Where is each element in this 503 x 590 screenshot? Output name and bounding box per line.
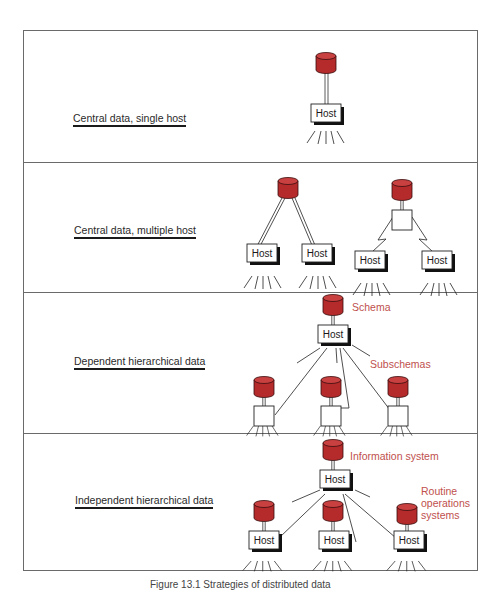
section-dependent-hierarchical-diagram: Host — [247, 295, 412, 437]
svg-text:Host: Host — [324, 535, 345, 546]
terminal-legs — [307, 131, 344, 144]
svg-text:Host: Host — [307, 248, 328, 259]
database-icon — [323, 440, 343, 461]
terminal-legs — [381, 426, 412, 436]
host-box: Host — [311, 104, 344, 125]
database-icon — [278, 178, 298, 199]
database-icon — [323, 501, 343, 522]
database-icon — [392, 180, 412, 201]
processor-box — [392, 210, 412, 230]
host-box: Host — [355, 251, 388, 272]
host-box: Host — [318, 325, 351, 346]
svg-text:Host: Host — [399, 535, 420, 546]
terminal-legs — [299, 276, 336, 289]
terminal-legs — [387, 561, 426, 571]
svg-text:Host: Host — [427, 255, 448, 266]
section-central-multiple-diagram-left: Host Host — [244, 178, 336, 290]
section-independent-hierarchical-diagram: Host Host Host Host — [243, 440, 427, 572]
host-box: Host — [422, 251, 455, 272]
processor-box — [254, 406, 274, 426]
database-icon — [316, 53, 336, 74]
svg-text:Host: Host — [323, 329, 344, 340]
processor-box — [388, 406, 408, 426]
terminal-legs — [313, 561, 352, 571]
terminal-legs — [243, 561, 282, 571]
host-box: Host — [247, 244, 280, 265]
terminal-legs — [244, 276, 281, 289]
section-central-single-diagram: Host — [307, 53, 344, 145]
host-box: Host — [302, 244, 335, 265]
section-central-multiple-diagram-right: Host Host — [353, 180, 457, 297]
database-icon — [254, 501, 274, 522]
terminal-legs — [247, 426, 278, 436]
processor-box — [321, 406, 341, 426]
host-box: Host — [394, 531, 427, 552]
host-box: Host — [249, 531, 282, 552]
terminal-legs — [420, 283, 457, 296]
host-label: Host — [316, 108, 337, 119]
svg-text:Host: Host — [325, 474, 346, 485]
database-icon — [321, 377, 341, 398]
figure-caption: Figure 13.1 Strategies of distributed da… — [150, 579, 331, 590]
database-icon — [397, 504, 417, 525]
terminal-legs — [353, 283, 390, 296]
terminal-legs — [314, 426, 345, 436]
svg-text:Host: Host — [252, 248, 273, 259]
database-icon — [323, 295, 343, 316]
svg-text:Host: Host — [254, 535, 275, 546]
host-box: Host — [319, 531, 352, 552]
host-box: Host — [320, 470, 353, 491]
database-icon — [388, 377, 408, 398]
svg-text:Host: Host — [360, 255, 381, 266]
stem-line — [325, 73, 328, 104]
database-icon — [254, 377, 274, 398]
